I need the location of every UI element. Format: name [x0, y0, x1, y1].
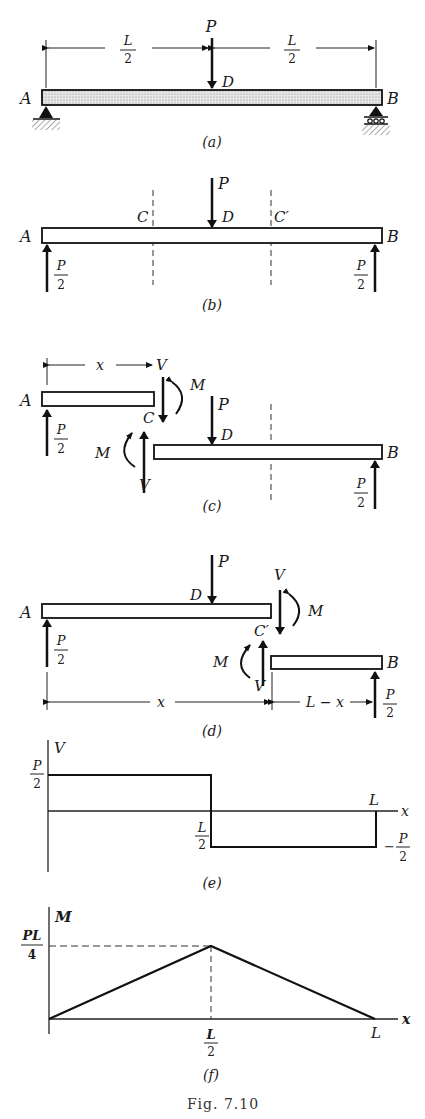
moment-top-label: M [189, 376, 206, 394]
reaction-right-den: 2 [386, 706, 394, 720]
caption-b: (b) [202, 297, 222, 313]
shear-bottom-label: V [139, 476, 152, 494]
pin-support-icon [32, 106, 60, 130]
moment-arrow-icon [289, 594, 299, 626]
shear-top-label: V [274, 566, 287, 584]
moment-arrow-icon [124, 433, 135, 467]
moment-bottom-label: M [94, 444, 111, 462]
section-c-prime-label: C′ [254, 622, 269, 640]
load-label: P [205, 17, 217, 36]
subfigure-e-shear-diagram: V x P 2 L 2 L − P 2 (e) [30, 739, 410, 891]
left-segment [42, 392, 154, 406]
tick-mid-num: L [197, 820, 207, 835]
moment-arrow-icon [241, 645, 250, 678]
reaction-right-den: 2 [357, 278, 365, 292]
moment-arrow-icon [172, 382, 182, 414]
tick-top-num: P [32, 758, 42, 773]
x-axis-label: x [401, 803, 409, 819]
load-label: P [217, 395, 229, 414]
end-label-b: B [386, 89, 399, 108]
tick-peak-num: PL [22, 928, 42, 943]
load-point-label: D [189, 586, 202, 604]
subfigure-a: L 2 L 2 P D A B (a) [18, 17, 399, 150]
reaction-right-num: P [356, 476, 366, 491]
caption-a: (a) [202, 134, 221, 150]
reaction-left-num: P [56, 633, 66, 648]
figure-caption: Fig. 7.10 [187, 1096, 259, 1112]
reaction-right-den: 2 [357, 496, 365, 510]
reaction-right-num: P [385, 687, 395, 702]
tick-end: L [368, 791, 379, 809]
subfigure-d: P D V A M C′ P 2 B M V x L − x P 2 (d) [18, 552, 399, 739]
left-segment [42, 604, 271, 618]
span-right-numerator: L [287, 33, 297, 48]
reaction-left-den: 2 [57, 278, 65, 292]
load-point-label: D [220, 426, 233, 444]
end-label-a: A [18, 603, 32, 622]
shear-bottom-label: V [254, 677, 267, 695]
beam [42, 228, 382, 243]
load-label: P [217, 174, 229, 193]
tick-end: L [370, 1024, 381, 1042]
caption-e: (e) [202, 875, 221, 891]
shear-top-label: V [156, 356, 169, 374]
beam [42, 90, 382, 105]
moment-bottom-label: M [212, 653, 229, 671]
dim-x-label: x [157, 694, 165, 710]
y-axis-label: V [54, 739, 67, 757]
span-left-numerator: L [123, 33, 133, 48]
caption-d: (d) [202, 723, 222, 739]
right-segment [154, 445, 382, 459]
tick-mid-den: 2 [207, 1045, 215, 1059]
tick-bottom-sign: − [384, 839, 395, 854]
load-point-label: D [221, 208, 234, 226]
reaction-left-num: P [56, 422, 66, 437]
caption-c: (c) [203, 498, 222, 514]
tick-mid-den: 2 [198, 838, 206, 852]
right-segment [271, 656, 382, 669]
end-label-a: A [18, 391, 32, 410]
y-axis-label: M [54, 908, 72, 926]
span-right-denominator: 2 [288, 52, 296, 66]
tick-mid-num: L [205, 1027, 215, 1042]
reaction-left-den: 2 [57, 442, 65, 456]
subfigure-c: x V A M C P 2 P D B M V P 2 (c) [18, 356, 399, 514]
caption-f: (f) [203, 1067, 219, 1083]
end-label-a: A [18, 227, 32, 246]
section-c-label: C [143, 409, 155, 427]
roller-support-icon [362, 106, 390, 135]
reaction-left-num: P [56, 258, 66, 273]
tick-peak-den: 4 [28, 948, 36, 962]
load-point-label: D [221, 73, 234, 91]
beam-figure: L 2 L 2 P D A B (a) P D [0, 0, 425, 1119]
end-label-b: B [386, 653, 399, 672]
dim-l-minus-x-label: L − x [305, 694, 344, 710]
tick-top-den: 2 [33, 777, 41, 791]
x-axis-label: x [401, 1011, 411, 1027]
end-label-b: B [386, 443, 399, 462]
dim-x-label: x [96, 357, 104, 373]
moment-top-label: M [307, 602, 324, 620]
reaction-right-num: P [356, 258, 366, 273]
moment-curve [49, 946, 375, 1019]
reaction-left-den: 2 [57, 653, 65, 667]
end-label-b: B [386, 227, 399, 246]
subfigure-f-moment-diagram: M x PL 4 L 2 L (f) [21, 907, 411, 1083]
subfigure-b: P D C C′ A B P 2 P 2 (b) [18, 174, 399, 313]
section-c-label: C [137, 208, 149, 226]
span-left-denominator: 2 [124, 52, 132, 66]
end-label-a: A [18, 89, 32, 108]
tick-bottom-den: 2 [399, 850, 407, 864]
load-label: P [217, 552, 229, 571]
tick-bottom-num: P [398, 831, 408, 846]
section-c-prime-label: C′ [274, 208, 289, 226]
